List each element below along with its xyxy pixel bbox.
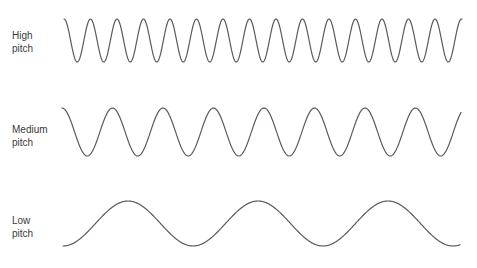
high-pitch-waveform (64, 19, 462, 62)
sound-waves-diagram (0, 0, 477, 268)
medium-pitch-waveform (62, 108, 461, 156)
low-pitch-waveform (63, 201, 460, 246)
